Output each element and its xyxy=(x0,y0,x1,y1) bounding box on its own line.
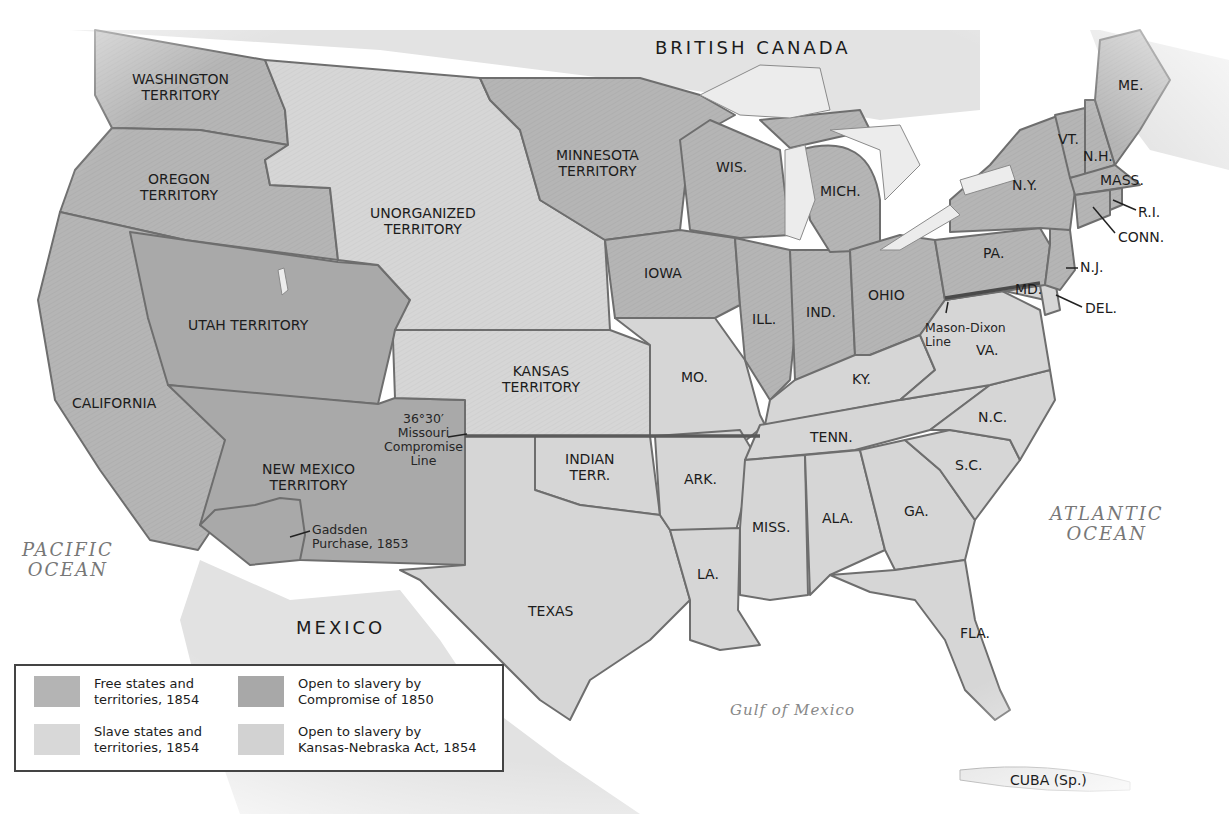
label-washington-territory: WASHINGTONTERRITORY xyxy=(132,72,229,103)
label-gulf-of-mexico: Gulf of Mexico xyxy=(730,702,855,719)
label-indiana: IND. xyxy=(806,305,836,321)
legend-item-compromise-1850: Open to slavery byCompromise of 1850 xyxy=(238,676,434,707)
label-delaware: DEL. xyxy=(1085,301,1117,317)
label-massachusetts: MASS. xyxy=(1100,173,1144,189)
label-illinois: ILL. xyxy=(752,312,776,328)
label-connecticut: CONN. xyxy=(1118,230,1164,246)
label-new-jersey: N.J. xyxy=(1080,260,1104,276)
label-florida: FLA. xyxy=(960,626,990,642)
label-california: CALIFORNIA xyxy=(72,396,156,412)
label-mason-dixon-line: Mason-DixonLine xyxy=(925,321,1006,349)
label-minnesota-territory: MINNESOTATERRITORY xyxy=(556,148,639,179)
legend-swatch-free xyxy=(34,676,80,707)
label-missouri: MO. xyxy=(681,370,708,386)
label-kansas-territory: KANSASTERRITORY xyxy=(502,364,580,395)
label-georgia: GA. xyxy=(904,504,929,520)
label-rhode-island: R.I. xyxy=(1138,205,1160,221)
legend-item-kansas-nebraska: Open to slavery byKansas-Nebraska Act, 1… xyxy=(238,724,476,755)
label-new-york: N.Y. xyxy=(1012,178,1037,194)
label-pacific-ocean: PACIFICOCEAN xyxy=(22,540,114,580)
label-iowa: IOWA xyxy=(644,266,682,282)
label-texas: TEXAS xyxy=(528,604,573,620)
label-michigan: MICH. xyxy=(820,184,861,200)
label-maryland: MD. xyxy=(1015,282,1042,298)
label-alabama: ALA. xyxy=(822,511,853,527)
legend-swatch-slave xyxy=(34,724,80,755)
label-vermont: VT. xyxy=(1058,132,1079,148)
label-wisconsin: WIS. xyxy=(716,160,747,176)
label-tennessee: TENN. xyxy=(810,430,853,446)
label-arkansas: ARK. xyxy=(684,472,717,488)
legend-item-free: Free states andterritories, 1854 xyxy=(34,676,199,707)
legend-swatch-compromise-1850 xyxy=(238,676,284,707)
label-atlantic-ocean: ATLANTICOCEAN xyxy=(1050,504,1164,544)
label-utah-territory: UTAH TERRITORY xyxy=(188,318,308,334)
label-north-carolina: N.C. xyxy=(978,410,1007,426)
label-unorganized-territory: UNORGANIZEDTERRITORY xyxy=(370,206,476,237)
label-mississippi: MISS. xyxy=(752,520,790,536)
label-kentucky: KY. xyxy=(852,372,871,388)
legend-swatch-kansas-nebraska xyxy=(238,724,284,755)
label-new-mexico-territory: NEW MEXICOTERRITORY xyxy=(262,462,355,493)
label-gadsden-purchase: GadsdenPurchase, 1853 xyxy=(312,523,409,551)
label-pennsylvania: PA. xyxy=(983,246,1004,262)
label-missouri-compromise: 36°30′MissouriCompromiseLine xyxy=(384,412,463,468)
label-louisiana: LA. xyxy=(697,567,719,583)
rhode-island xyxy=(1110,188,1122,210)
label-oregon-territory: OREGONTERRITORY xyxy=(140,172,218,203)
label-south-carolina: S.C. xyxy=(955,458,983,474)
label-indian-territory: INDIANTERR. xyxy=(565,452,615,483)
legend-item-slave: Slave states andterritories, 1854 xyxy=(34,724,202,755)
label-ohio: OHIO xyxy=(868,288,905,304)
label-british-canada: BRITISH CANADA xyxy=(655,38,851,58)
map-legend: Free states andterritories, 1854 Open to… xyxy=(14,664,504,772)
label-maine: ME. xyxy=(1118,78,1143,94)
label-new-hampshire: N.H. xyxy=(1083,149,1113,165)
label-mexico: MEXICO xyxy=(296,618,385,638)
label-cuba: CUBA (Sp.) xyxy=(1010,773,1087,789)
